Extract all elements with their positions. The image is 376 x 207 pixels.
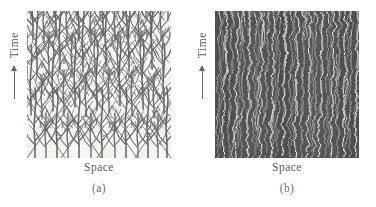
- up-arrow-icon: [9, 65, 19, 99]
- panel-a: Time: [0, 0, 188, 207]
- panel-caption-a: (a): [27, 182, 171, 194]
- space-axis-label-b: Space: [215, 161, 359, 173]
- time-axis-b: Time: [190, 18, 214, 146]
- up-arrow-icon: [197, 65, 207, 99]
- time-axis-label-a: Time: [8, 32, 20, 58]
- panel-caption-b: (b): [215, 182, 359, 194]
- panel-b: Time: [188, 0, 376, 207]
- plot-area-b: [215, 11, 359, 158]
- plot-area-a: [27, 11, 171, 158]
- time-axis-a: Time: [2, 18, 26, 146]
- space-axis-label-a: Space: [27, 161, 171, 173]
- figure-two-panel: Time: [0, 0, 376, 207]
- time-axis-label-b: Time: [196, 32, 208, 58]
